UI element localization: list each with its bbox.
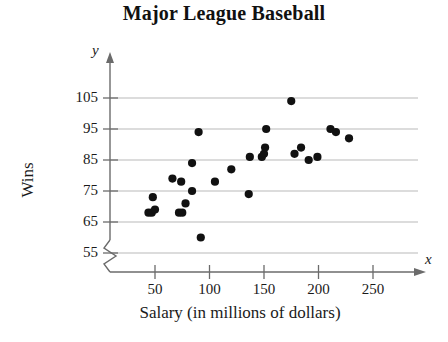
data-point xyxy=(290,150,298,158)
data-point xyxy=(297,144,305,152)
chart-figure: Major League Baseball Wins Salary (in mi… xyxy=(0,0,448,342)
data-point xyxy=(177,178,185,186)
x-tick-label: 150 xyxy=(239,282,289,297)
data-point xyxy=(245,190,253,198)
data-point xyxy=(313,153,321,161)
data-point xyxy=(178,209,186,217)
data-point xyxy=(261,144,269,152)
axes-group xyxy=(104,52,426,276)
y-axis-arrow-icon xyxy=(106,52,114,63)
y-tick-label: 75 xyxy=(52,183,98,198)
data-point xyxy=(149,193,157,201)
y-tick-label: 55 xyxy=(52,245,98,260)
y-axis-break-icon xyxy=(104,240,116,272)
data-points-group xyxy=(144,97,353,242)
x-axis-arrow-icon xyxy=(414,268,426,276)
y-tick-label: 65 xyxy=(52,214,98,229)
data-point xyxy=(332,128,340,136)
data-point xyxy=(211,178,219,186)
data-point xyxy=(287,97,295,105)
data-point xyxy=(188,159,196,167)
data-point xyxy=(305,156,313,164)
x-tick-label: 100 xyxy=(185,282,235,297)
data-point xyxy=(197,233,205,241)
data-point xyxy=(188,187,196,195)
x-tick-label: 50 xyxy=(130,282,180,297)
gridlines-group xyxy=(110,98,418,253)
data-point xyxy=(262,125,270,133)
data-point xyxy=(345,134,353,142)
y-tick-label: 105 xyxy=(52,90,98,105)
x-tick-label: 250 xyxy=(348,282,398,297)
data-point xyxy=(246,153,254,161)
data-point xyxy=(168,175,176,183)
y-tick-label: 85 xyxy=(52,152,98,167)
data-point xyxy=(151,206,159,214)
y-tick-label: 95 xyxy=(52,121,98,136)
data-point xyxy=(181,199,189,207)
data-point xyxy=(195,128,203,136)
data-point xyxy=(227,165,235,173)
x-tick-label: 200 xyxy=(294,282,344,297)
